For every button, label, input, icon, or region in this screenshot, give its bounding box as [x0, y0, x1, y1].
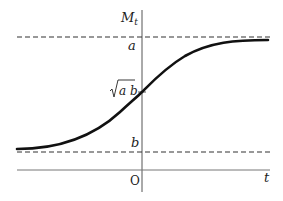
lower-level-label: b	[131, 135, 139, 150]
y-axis-label: Mt	[120, 10, 138, 27]
origin-label: O	[130, 174, 140, 188]
sqrt-ab-label: a b	[110, 80, 138, 98]
svg-text:a b: a b	[119, 84, 138, 98]
x-axis-label: t	[264, 170, 270, 185]
logistic-diagram: Mt a a b b O t	[0, 0, 283, 201]
upper-level-label: a	[128, 38, 136, 53]
